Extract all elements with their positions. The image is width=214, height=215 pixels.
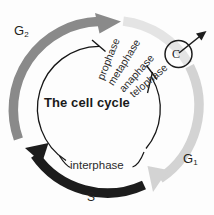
page-title: The cell cycle xyxy=(44,96,130,109)
g1-subscript: 1 xyxy=(193,158,198,167)
label-cytokinesis: C xyxy=(172,47,180,62)
cell-cycle-diagram: G2 G1 S interphase The cell cycle propha… xyxy=(0,0,214,215)
g1-letter: G xyxy=(183,151,193,166)
g2-subscript: 2 xyxy=(24,30,29,39)
g2-letter: G xyxy=(14,23,24,38)
label-g2-phase: G2 xyxy=(14,24,29,37)
label-s-phase: S xyxy=(87,191,95,203)
label-g1-phase: G1 xyxy=(183,152,198,165)
label-interphase: interphase xyxy=(70,160,124,172)
